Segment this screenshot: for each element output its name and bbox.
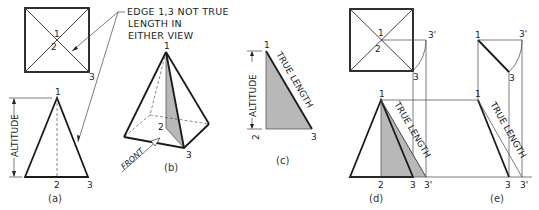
svg-text:3: 3 <box>509 73 515 83</box>
svg-text:1: 1 <box>379 89 385 99</box>
svg-text:1: 1 <box>475 30 481 40</box>
svg-text:EITHER VIEW: EITHER VIEW <box>128 30 194 41</box>
svg-text:3: 3 <box>413 72 419 82</box>
svg-text:3: 3 <box>87 180 93 190</box>
front-arrow-label: FRONT <box>119 146 146 172</box>
caption-a: (a) <box>48 193 62 204</box>
svg-text:1: 1 <box>55 87 61 97</box>
note-edge-not-true-length: EDGE 1,3 NOT TRUE LENGTH IN EITHER VIEW <box>118 6 229 41</box>
svg-text:2: 2 <box>251 134 261 140</box>
view-e-auxiliary: 1 3' 3 1 3 3' TRUE LENGTH (e) <box>475 29 528 204</box>
svg-text:3: 3 <box>186 150 192 160</box>
caption-b: (b) <box>164 162 178 173</box>
svg-text:3': 3' <box>520 180 528 190</box>
svg-text:1: 1 <box>264 40 270 50</box>
svg-text:1: 1 <box>164 41 170 51</box>
view-a: 1 2 3 1 2 3 ALTITUDE (a) <box>9 8 118 204</box>
pyramid-true-length-diagram: 1 2 3 1 2 3 ALTITUDE (a) EDGE 1,3 NOT TR… <box>0 0 539 210</box>
svg-text:2: 2 <box>378 180 384 190</box>
svg-text:2: 2 <box>375 44 381 54</box>
svg-text:3': 3' <box>519 29 527 39</box>
svg-text:2: 2 <box>54 180 60 190</box>
view-d-revolution: 1 2 3 3' 1 2 3 3' TRUE LENGTH (d) <box>350 9 436 204</box>
point-1-label: 1 <box>54 29 60 39</box>
svg-text:3': 3' <box>424 180 432 190</box>
svg-text:1: 1 <box>378 28 384 38</box>
svg-text:2: 2 <box>158 122 164 132</box>
caption-e: (e) <box>490 193 504 204</box>
svg-text:EDGE 1,3 NOT TRUE: EDGE 1,3 NOT TRUE <box>127 6 229 17</box>
caption-c: (c) <box>276 155 289 166</box>
point-3-label: 3 <box>89 72 95 82</box>
point-2-label: 2 <box>51 42 57 52</box>
svg-text:LENGTH IN: LENGTH IN <box>128 18 182 29</box>
view-c-true-length-triangle: 1 2 3 ALTITUDE TRUE LENGTH (c) <box>247 40 317 166</box>
svg-text:3: 3 <box>410 180 416 190</box>
svg-text:1: 1 <box>475 89 481 99</box>
view-b-pictorial: 1 2 3 FRONT (b) <box>119 41 209 173</box>
altitude-label-c: ALTITUDE <box>248 74 258 117</box>
svg-text:3: 3 <box>311 132 317 142</box>
svg-text:3: 3 <box>505 180 511 190</box>
svg-text:3': 3' <box>428 30 436 40</box>
caption-d: (d) <box>369 193 383 204</box>
altitude-label-a: ALTITUDE <box>10 114 20 157</box>
